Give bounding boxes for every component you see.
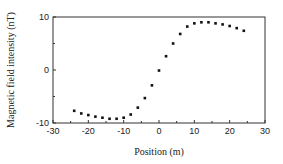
data-point xyxy=(200,21,203,24)
data-points xyxy=(73,21,245,120)
chart: -30-20-100102030-10010 Position (m) Magn… xyxy=(0,0,283,164)
x-tick-label: 10 xyxy=(189,126,199,136)
data-point xyxy=(115,117,118,120)
data-point xyxy=(158,69,161,72)
data-point xyxy=(108,117,111,120)
data-point xyxy=(243,29,246,32)
data-point xyxy=(193,22,196,25)
x-tick-label: -10 xyxy=(117,126,130,136)
data-point xyxy=(94,115,97,118)
data-point xyxy=(221,23,224,26)
data-point xyxy=(80,112,83,115)
data-point xyxy=(87,114,90,117)
data-point xyxy=(235,27,238,30)
data-point xyxy=(144,97,147,100)
data-point xyxy=(101,116,104,119)
data-point xyxy=(214,22,217,25)
data-point xyxy=(165,55,168,58)
data-point xyxy=(179,33,182,36)
axis-ticks: -30-20-100102030-10010 xyxy=(36,12,270,136)
data-point xyxy=(129,113,132,116)
x-tick-label: 30 xyxy=(260,126,270,136)
y-axis-title: Magnetic field intensity (nT) xyxy=(5,12,17,128)
data-point xyxy=(228,25,231,28)
y-tick-label: 10 xyxy=(39,12,49,22)
x-tick-label: -20 xyxy=(82,126,95,136)
data-point xyxy=(137,106,140,109)
data-point xyxy=(172,42,175,45)
data-point xyxy=(186,25,189,28)
x-tick-label: 20 xyxy=(225,126,235,136)
data-point xyxy=(207,21,210,24)
y-tick-label: -10 xyxy=(36,118,49,128)
data-point xyxy=(122,116,125,119)
data-point xyxy=(73,110,76,113)
x-tick-label: 0 xyxy=(156,126,161,136)
y-tick-label: 0 xyxy=(44,65,49,75)
data-point xyxy=(151,84,154,87)
x-axis-title: Position (m) xyxy=(134,146,184,158)
